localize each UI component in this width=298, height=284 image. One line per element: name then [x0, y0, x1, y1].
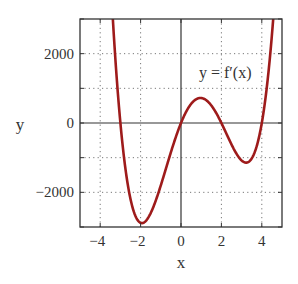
chart: −4−2024 −200002000 x y y = f′(x): [0, 0, 298, 284]
y-tick-label: −2000: [36, 184, 74, 200]
x-tick-label: 4: [258, 233, 266, 249]
y-tick-labels: −200002000: [36, 46, 74, 201]
x-tick-label: −4: [89, 233, 105, 249]
x-axis-label: x: [177, 253, 186, 272]
curve-annotation: y = f′(x): [199, 64, 252, 82]
x-tick-labels: −4−2024: [89, 233, 266, 249]
curve-line: [110, 0, 276, 223]
y-tick-label: 0: [67, 115, 75, 131]
x-tick-label: 0: [177, 233, 185, 249]
x-tick-label: 2: [218, 233, 226, 249]
y-axis-label: y: [16, 115, 25, 134]
curve-f-prime: [110, 0, 276, 223]
x-tick-label: −2: [130, 233, 146, 249]
y-tick-label: 2000: [44, 46, 74, 62]
